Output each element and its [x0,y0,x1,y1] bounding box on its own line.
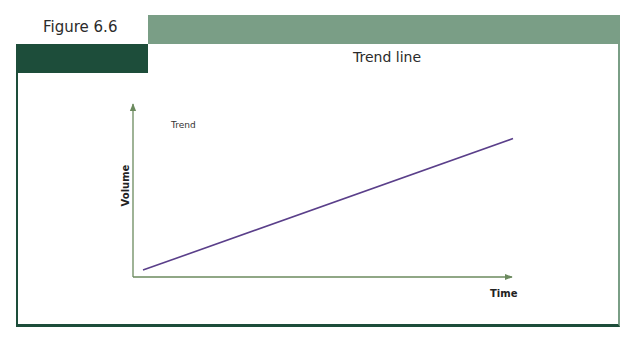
y-axis-label: Volume [120,156,131,216]
chart-plot [0,0,632,344]
x-axis-label: Time [490,288,517,299]
trend-line [143,139,513,270]
trend-annotation: Trend [171,120,196,130]
